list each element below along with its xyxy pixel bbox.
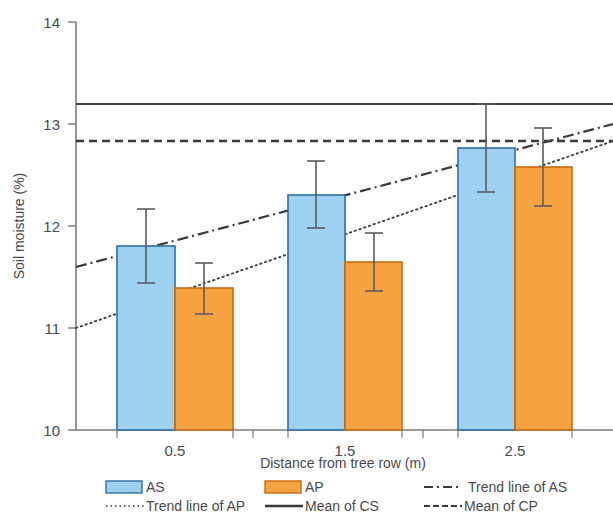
x-axis-ticks	[117, 430, 572, 438]
bar-as-1.5	[288, 195, 345, 430]
legend-item-trend-as: Trend line of AS	[424, 479, 567, 495]
legend-swatch-as	[106, 481, 142, 493]
y-tick-label-14: 14	[43, 14, 60, 31]
y-axis-title: Soil moisture (%)	[11, 173, 27, 280]
x-axis-title: Distance from tree row (m)	[260, 455, 426, 471]
legend-label-trend-as: Trend line of AS	[468, 479, 567, 495]
legend-label-as: AS	[146, 479, 165, 495]
legend-item-mean-cs: Mean of CS	[265, 498, 379, 514]
legend-label-ap: AP	[305, 479, 324, 495]
legend-label-mean-cs: Mean of CS	[305, 498, 379, 514]
legend-swatch-ap	[265, 481, 301, 493]
y-axis-ticks	[68, 22, 76, 430]
y-tick-label-10: 10	[43, 422, 60, 439]
legend-label-trend-ap: Trend line of AP	[146, 498, 245, 514]
chart-svg: 14 13 12 11 10 Soil moisture (%)	[0, 0, 613, 519]
y-tick-label-13: 13	[43, 116, 60, 133]
legend-label-mean-cp: Mean of CP	[464, 498, 538, 514]
legend-item-trend-ap: Trend line of AP	[106, 498, 245, 514]
legend-item-ap: AP	[265, 479, 324, 495]
chart-legend: AS AP Trend line of AS Trend line of AP …	[106, 479, 567, 514]
x-tick-label-0: 0.5	[165, 442, 186, 459]
soil-moisture-chart: 14 13 12 11 10 Soil moisture (%)	[0, 0, 613, 519]
x-tick-label-2: 2.5	[505, 442, 526, 459]
legend-item-mean-cp: Mean of CP	[424, 498, 538, 514]
y-tick-label-12: 12	[43, 218, 60, 235]
y-tick-label-11: 11	[44, 320, 60, 337]
legend-item-as: AS	[106, 479, 165, 495]
